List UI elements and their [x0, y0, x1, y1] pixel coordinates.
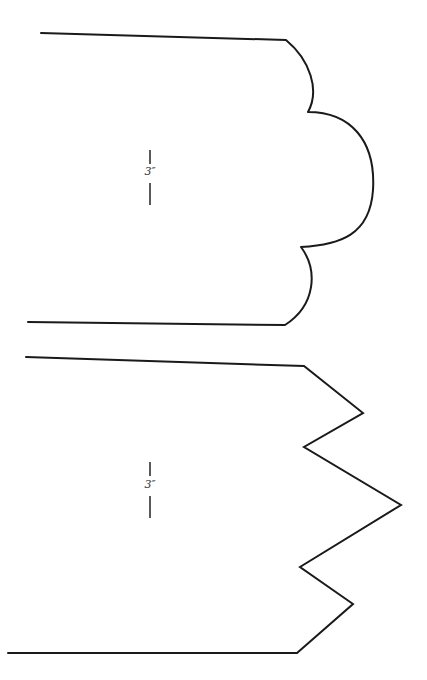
zigzag-outline — [8, 357, 401, 653]
pattern-diagram — [0, 0, 427, 680]
scalloped-outline — [28, 33, 373, 325]
dimension-label: 3″ — [135, 478, 165, 491]
dimension-label: 3″ — [135, 165, 165, 178]
